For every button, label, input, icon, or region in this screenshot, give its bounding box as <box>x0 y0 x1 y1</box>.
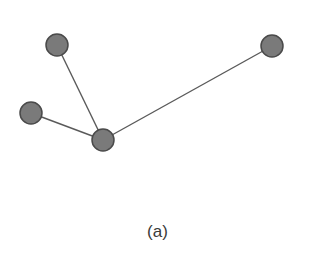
node-hub <box>92 129 114 151</box>
node-n4 <box>261 35 283 57</box>
figure-caption: (a) <box>0 222 315 242</box>
edges-group <box>31 45 272 140</box>
edge-hub-n4 <box>103 46 272 140</box>
graph-diagram <box>0 0 315 258</box>
nodes-group <box>20 34 283 151</box>
node-n1 <box>46 34 68 56</box>
node-n2 <box>20 102 42 124</box>
